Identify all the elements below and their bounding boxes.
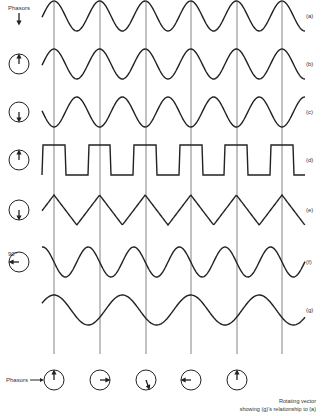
caption-line-2: showing (g)'s relationship to (a) <box>240 405 316 413</box>
svg-text:(g): (g) <box>306 307 313 313</box>
svg-text:Phasors: Phasors <box>8 5 30 11</box>
reference-lines <box>54 2 282 354</box>
row-labels: Phasors90°(a)(b)(c)(d)(e)(f)(g)Phasors <box>6 5 313 383</box>
phasor-diagram: Phasors90°(a)(b)(c)(d)(e)(f)(g)Phasors <box>0 0 322 416</box>
waveforms <box>42 1 305 325</box>
svg-text:(b): (b) <box>306 61 313 67</box>
svg-text:90°: 90° <box>8 251 18 257</box>
svg-text:(e): (e) <box>306 207 313 213</box>
phasor-circles <box>9 13 247 390</box>
svg-text:(d): (d) <box>306 157 313 163</box>
svg-text:(f): (f) <box>306 259 312 265</box>
svg-text:Phasors: Phasors <box>6 377 28 383</box>
svg-text:(a): (a) <box>306 13 313 19</box>
caption: Rotating vector showing (g)'s relationsh… <box>240 397 316 413</box>
caption-line-1: Rotating vector <box>240 397 316 405</box>
svg-text:(c): (c) <box>306 109 313 115</box>
